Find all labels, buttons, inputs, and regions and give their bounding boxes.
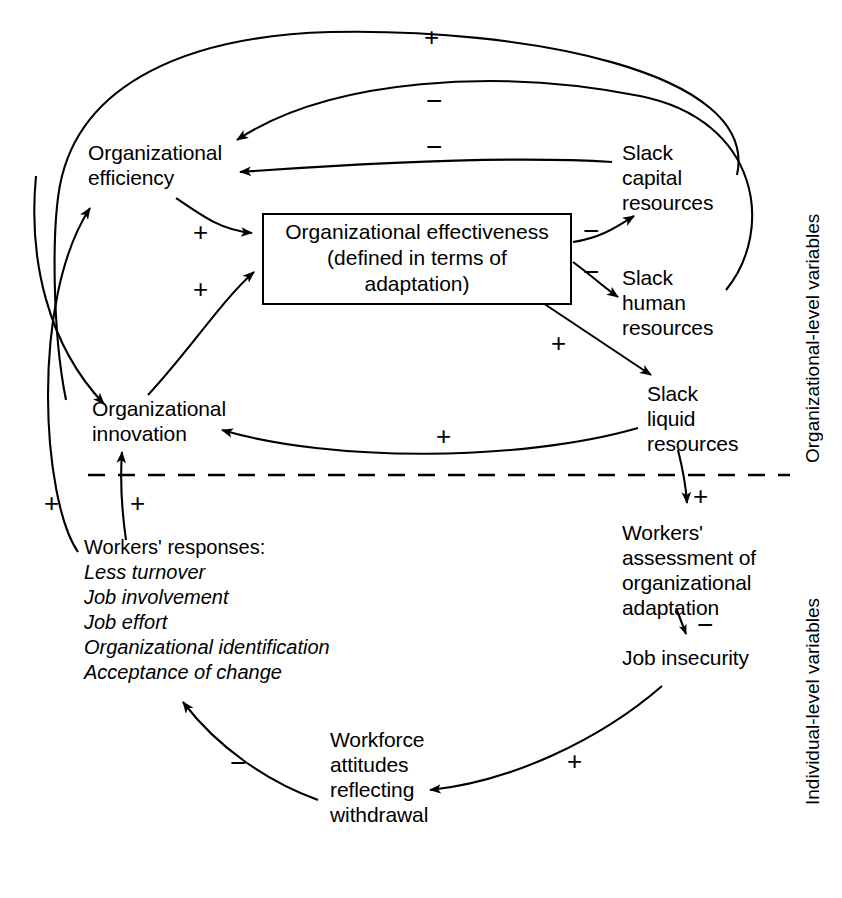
workers-responses-item-1: Job involvement bbox=[84, 585, 394, 610]
workers-responses-title: Workers' responses: bbox=[84, 535, 394, 560]
node-workers-assessment: Workers' assessment of organizational ad… bbox=[622, 520, 792, 620]
node-organizational-efficiency: Organizational efficiency bbox=[88, 140, 258, 190]
sign-efficiency-inner-minus: − bbox=[426, 134, 442, 160]
node-slack-human-resources: Slack human resources bbox=[622, 265, 772, 340]
node-workforce-attitudes: Workforce attitudes reflecting withdrawa… bbox=[330, 727, 490, 827]
node-organizational-innovation: Organizational innovation bbox=[92, 396, 272, 446]
sign-liquid-to-innovation-plus: + bbox=[436, 423, 451, 449]
sign-innovation-to-effectiveness-plus: + bbox=[193, 276, 208, 302]
node-job-insecurity: Job insecurity bbox=[622, 645, 802, 670]
edge-attitudes-to-responses bbox=[183, 702, 318, 800]
edge-efficiency-to-effectiveness bbox=[176, 198, 252, 233]
sign-responses-to-efficiency-plus: + bbox=[44, 490, 59, 516]
workers-responses-item-4: Acceptance of change bbox=[84, 660, 394, 685]
label-individual-level-variables: Individual-level variables bbox=[802, 505, 824, 805]
node-slack-liquid-resources: Slack liquid resources bbox=[647, 381, 797, 456]
node-slack-capital-resources: Slack capital resources bbox=[622, 140, 772, 215]
node-organizational-effectiveness: Organizational effectiveness (defined in… bbox=[262, 213, 572, 305]
edge-liquid-to-innovation bbox=[222, 428, 638, 454]
sign-assessment-to-insecurity-minus: − bbox=[697, 612, 713, 638]
edge-liquid-to-assessment bbox=[678, 450, 687, 503]
sign-effectiveness-to-capital-minus: − bbox=[583, 218, 599, 244]
sign-top-outer-plus: + bbox=[424, 24, 439, 50]
sign-top-inner-minus: − bbox=[426, 88, 442, 114]
label-organizational-level-variables: Organizational-level variables bbox=[802, 133, 824, 463]
diagram-canvas: Organizational efficiency Organizational… bbox=[0, 0, 842, 898]
sign-effectiveness-to-liquid-plus: + bbox=[551, 330, 566, 356]
workers-responses-block: Workers' responses: Less turnover Job in… bbox=[84, 535, 394, 685]
edge-efficiency-to-innovation bbox=[34, 176, 104, 404]
workers-responses-item-3: Organizational identification bbox=[84, 635, 394, 660]
workers-responses-item-2: Job effort bbox=[84, 610, 394, 635]
sign-effectiveness-to-human-minus: − bbox=[583, 259, 599, 285]
sign-efficiency-to-effectiveness-plus: + bbox=[193, 219, 208, 245]
sign-responses-to-innovation-plus: + bbox=[130, 490, 145, 516]
workers-responses-item-0: Less turnover bbox=[84, 560, 394, 585]
edge-responses-to-innovation bbox=[121, 452, 126, 540]
sign-liquid-to-assessment-plus: + bbox=[693, 483, 708, 509]
sign-insecurity-to-attitudes-plus: + bbox=[567, 748, 582, 774]
sign-attitudes-to-responses-minus: − bbox=[230, 750, 246, 776]
